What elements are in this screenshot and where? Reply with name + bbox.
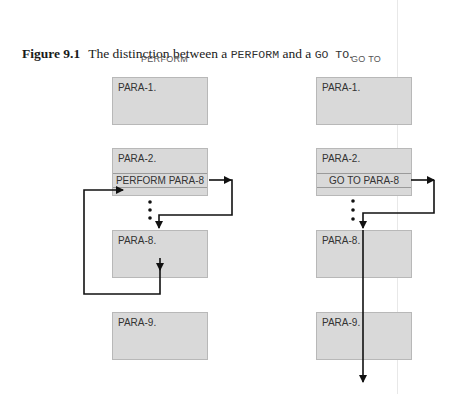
goto-flow-arrows bbox=[363, 180, 434, 382]
perform-ellipsis-dots bbox=[148, 200, 152, 220]
perform-flow-arrows bbox=[84, 180, 232, 294]
flow-arrows bbox=[0, 0, 457, 394]
goto-ellipsis-dots bbox=[351, 199, 355, 221]
